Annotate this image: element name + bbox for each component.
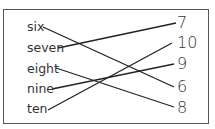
number-7: 7 bbox=[177, 14, 187, 32]
word-seven: seven bbox=[27, 41, 64, 55]
number-9: 9 bbox=[177, 55, 187, 73]
line-nine-9 bbox=[52, 64, 174, 89]
word-six: six bbox=[27, 20, 44, 34]
word-eight: eight bbox=[27, 62, 59, 76]
number-10: 10 bbox=[177, 34, 197, 52]
number-8: 8 bbox=[177, 99, 187, 117]
number-6: 6 bbox=[177, 78, 187, 96]
word-ten: ten bbox=[27, 102, 48, 116]
line-seven-7 bbox=[58, 23, 176, 48]
word-nine: nine bbox=[27, 82, 54, 96]
